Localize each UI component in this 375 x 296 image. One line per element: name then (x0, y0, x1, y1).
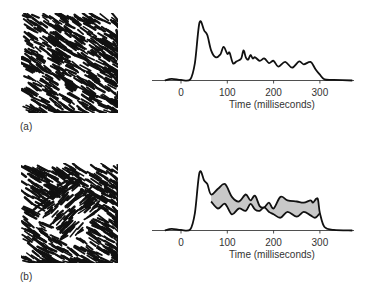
response-chart-b: 0100200300 Time (milliseconds) (140, 160, 370, 270)
response-curve (165, 21, 352, 81)
texture-image-a (21, 13, 118, 113)
x-tick-label: 0 (178, 87, 184, 98)
x-axis-title: Time (milliseconds) (229, 249, 315, 260)
x-tick-label: 100 (219, 237, 236, 248)
x-tick-label: 0 (178, 237, 184, 248)
panel-label-a: (a) (20, 121, 32, 132)
x-axis-title: Time (milliseconds) (229, 99, 315, 110)
x-ticks: 0100200300 (178, 231, 328, 248)
x-tick-label: 300 (312, 87, 329, 98)
texture-image-b (21, 163, 118, 263)
x-tick-label: 300 (312, 237, 329, 248)
x-tick-label: 100 (219, 87, 236, 98)
panel-label-b: (b) (20, 271, 32, 282)
x-tick-label: 200 (265, 237, 282, 248)
figure-response-curve (165, 171, 352, 231)
response-chart-a: 0100200300 Time (milliseconds) (140, 10, 370, 120)
x-tick-label: 200 (265, 87, 282, 98)
x-ticks: 0100200300 (178, 81, 328, 98)
